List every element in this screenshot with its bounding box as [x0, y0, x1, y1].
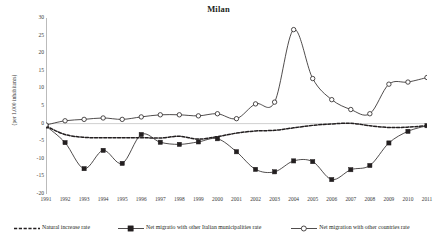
- data-point-marker: [273, 170, 277, 174]
- x-axis-tick-labels: 1991199219931994199519961997199819992000…: [46, 197, 427, 209]
- plot-svg: [46, 18, 427, 194]
- data-point-marker: [82, 167, 86, 171]
- y-tick-label: 25: [18, 33, 44, 39]
- data-point-marker: [120, 117, 124, 121]
- data-point-marker: [215, 137, 219, 141]
- data-point-marker: [330, 97, 334, 101]
- series-3: [46, 27, 427, 127]
- data-point-marker: [158, 140, 162, 144]
- series-2: [46, 124, 427, 182]
- legend-label-italian-municipalities-rate: Net migratio with other Italian municipa…: [146, 225, 261, 231]
- series-1: [46, 123, 427, 139]
- y-tick-label: 5: [18, 103, 44, 109]
- data-point-marker: [387, 141, 391, 145]
- data-point-marker: [101, 116, 105, 120]
- data-point-marker: [368, 112, 372, 116]
- series-line: [46, 123, 427, 139]
- line-filled-square-icon: [118, 224, 144, 233]
- chart-legend: Natural increase rate Net migratio with …: [0, 220, 437, 236]
- data-point-marker: [139, 115, 143, 119]
- data-point-marker: [177, 142, 181, 146]
- data-point-marker: [101, 148, 105, 152]
- y-tick-label: 15: [18, 68, 44, 74]
- data-point-marker: [234, 116, 238, 120]
- data-point-marker: [387, 82, 391, 86]
- data-point-marker: [82, 117, 86, 121]
- chart-title: Milan: [0, 4, 437, 14]
- y-tick-label: -10: [18, 156, 44, 162]
- data-point-marker: [196, 114, 200, 118]
- line-open-circle-icon: [291, 224, 317, 233]
- data-point-marker: [120, 161, 124, 165]
- series-line: [46, 29, 427, 125]
- y-tick-label: 0: [18, 121, 44, 127]
- data-point-marker: [330, 177, 334, 181]
- data-point-marker: [253, 167, 257, 171]
- data-point-marker: [139, 132, 143, 136]
- x-tick-label: 2011: [414, 197, 437, 202]
- legend-label-other-countries-rate: Net migration with other countries rate: [319, 225, 409, 231]
- y-axis-tick-labels: 302520151050-5-10-15-20: [14, 18, 44, 194]
- plot-area: [46, 18, 427, 194]
- data-point-marker: [46, 123, 48, 127]
- y-tick-label: 10: [18, 85, 44, 91]
- y-tick-label: 20: [18, 50, 44, 56]
- data-point-marker: [406, 80, 410, 84]
- chart-container: Milan (per 1,000 inhabitants) 3025201510…: [0, 0, 437, 242]
- y-tick-label: -15: [18, 173, 44, 179]
- data-point-marker: [311, 160, 315, 164]
- data-point-marker: [234, 150, 238, 154]
- data-point-marker: [425, 75, 427, 79]
- data-point-marker: [349, 168, 353, 172]
- legend-item-natural-increase-rate[interactable]: Natural increase rate: [14, 224, 90, 233]
- data-point-marker: [291, 27, 295, 31]
- data-point-marker: [253, 102, 257, 106]
- dashed-line-icon: [14, 224, 40, 233]
- data-point-marker: [215, 112, 219, 116]
- data-point-marker: [158, 113, 162, 117]
- data-point-marker: [292, 159, 296, 163]
- data-point-marker: [406, 129, 410, 133]
- data-point-marker: [368, 163, 372, 167]
- legend-item-other-countries-rate[interactable]: Net migration with other countries rate: [291, 224, 409, 233]
- data-point-marker: [196, 140, 200, 144]
- legend-item-italian-municipalities-rate[interactable]: Net migratio with other Italian municipa…: [118, 224, 261, 233]
- y-tick-label: -5: [18, 138, 44, 144]
- y-tick-label: 30: [18, 15, 44, 21]
- data-point-marker: [63, 119, 67, 123]
- data-point-marker: [272, 100, 276, 104]
- data-point-marker: [349, 107, 353, 111]
- data-point-marker: [63, 141, 67, 145]
- data-point-marker: [177, 113, 181, 117]
- legend-label-natural-increase-rate: Natural increase rate: [42, 225, 90, 231]
- data-point-marker: [425, 124, 427, 128]
- data-point-marker: [311, 76, 315, 80]
